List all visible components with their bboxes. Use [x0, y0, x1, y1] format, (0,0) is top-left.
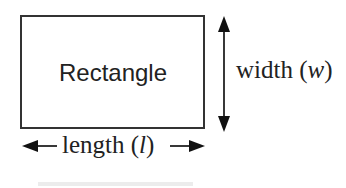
length-label: length (l): [62, 131, 154, 159]
width-label: width (w): [236, 56, 333, 84]
width-arrow: [218, 16, 230, 132]
length-arrow-right: [170, 140, 205, 152]
dimension-arrows: [0, 0, 346, 188]
length-arrow-left: [22, 140, 57, 152]
faint-underline-artifact: [38, 182, 193, 186]
